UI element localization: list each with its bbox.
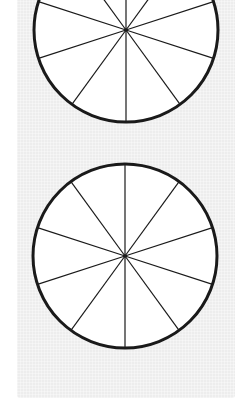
center-dot (124, 28, 128, 32)
divided-circles-figure (0, 0, 242, 401)
top-circle (34, 0, 218, 122)
center-dot (123, 254, 127, 258)
bottom-circle (33, 164, 217, 348)
